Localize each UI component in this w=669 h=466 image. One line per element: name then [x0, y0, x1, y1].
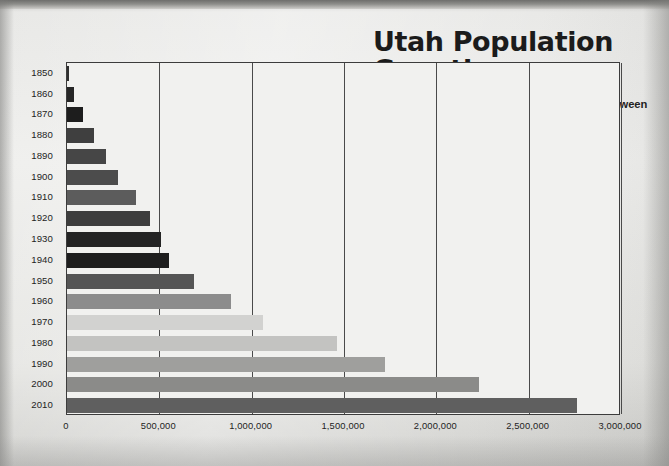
bar-1890: [67, 149, 106, 164]
bar-row: [67, 63, 621, 84]
y-tick-1940: 1940: [31, 249, 53, 270]
bar-1990: [67, 357, 385, 372]
bar-row: [67, 271, 621, 292]
bar-row: [67, 208, 621, 229]
y-tick-1970: 1970: [31, 311, 53, 332]
y-tick-1890: 1890: [31, 145, 53, 166]
y-tick-2000: 2000: [31, 373, 53, 394]
y-tick-1870: 1870: [31, 104, 53, 125]
y-axis-category-labels: 1850186018701880189019001910192019301940…: [0, 62, 62, 415]
printed-page: Utah Population Growth This chart shows …: [0, 0, 669, 466]
bar-row: [67, 333, 621, 354]
y-tick-1960: 1960: [31, 290, 53, 311]
bar-series: [67, 63, 619, 414]
bar-row: [67, 229, 621, 250]
bar-row: [67, 146, 621, 167]
x-axis-value-labels: 0500,0001,000,0001,500,0002,000,0002,500…: [0, 420, 669, 442]
bar-row: [67, 374, 621, 395]
bar-1920: [67, 211, 150, 226]
y-tick-1930: 1930: [31, 228, 53, 249]
bar-2010: [67, 398, 577, 413]
x-tick-2000000: 2,000,000: [414, 420, 457, 431]
x-tick-3000000: 3,000,000: [598, 420, 641, 431]
x-tick-1500000: 1,500,000: [321, 420, 364, 431]
bar-row: [67, 312, 621, 333]
y-tick-1980: 1980: [31, 332, 53, 353]
y-tick-2010: 2010: [31, 394, 53, 415]
bar-row: [67, 125, 621, 146]
x-tick-2500000: 2,500,000: [506, 420, 549, 431]
bar-row: [67, 395, 621, 416]
y-tick-1900: 1900: [31, 166, 53, 187]
bar-1980: [67, 336, 337, 351]
bar-row: [67, 354, 621, 375]
bar-1960: [67, 294, 231, 309]
x-tick-500000: 500,000: [141, 420, 176, 431]
bar-1930: [67, 232, 161, 247]
bar-1900: [67, 170, 118, 185]
bar-1940: [67, 253, 169, 268]
bar-1970: [67, 315, 263, 330]
bar-1910: [67, 190, 136, 205]
page-top-edge-shadow: [0, 0, 669, 9]
bar-1950: [67, 274, 194, 289]
bar-1850: [67, 66, 69, 81]
bar-row: [67, 250, 621, 271]
chart-plot-area: [66, 62, 620, 415]
bar-row: [67, 167, 621, 188]
y-tick-1860: 1860: [31, 83, 53, 104]
y-tick-1880: 1880: [31, 124, 53, 145]
y-tick-1920: 1920: [31, 207, 53, 228]
bar-row: [67, 291, 621, 312]
y-tick-1910: 1910: [31, 187, 53, 208]
bar-row: [67, 84, 621, 105]
y-tick-1950: 1950: [31, 270, 53, 291]
bar-row: [67, 188, 621, 209]
chart-plot-wrapper: [66, 62, 620, 415]
y-tick-1850: 1850: [31, 62, 53, 83]
x-tick-1000000: 1,000,000: [229, 420, 272, 431]
bar-2000: [67, 377, 479, 392]
bar-1860: [67, 87, 74, 102]
bar-1870: [67, 107, 83, 122]
x-tick-0: 0: [63, 420, 68, 431]
bar-row: [67, 105, 621, 126]
gridline-3000000: [621, 63, 622, 414]
y-tick-1990: 1990: [31, 353, 53, 374]
bar-1880: [67, 128, 94, 143]
